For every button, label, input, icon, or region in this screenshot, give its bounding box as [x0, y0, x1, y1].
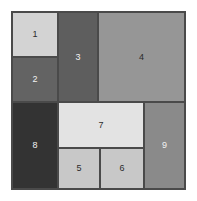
- treemap-tile-1[interactable]: 1: [12, 12, 58, 57]
- treemap-tile-6[interactable]: 6: [100, 148, 144, 189]
- treemap-tile-3[interactable]: 3: [58, 12, 98, 102]
- treemap-tile-7[interactable]: 7: [58, 102, 144, 148]
- treemap-tile-label: 4: [139, 53, 144, 62]
- treemap-tile-4[interactable]: 4: [98, 12, 185, 102]
- treemap-tile-label: 6: [119, 164, 124, 173]
- treemap-tile-2[interactable]: 2: [12, 57, 58, 102]
- treemap-tile-label: 8: [32, 141, 37, 150]
- treemap-tile-label: 5: [76, 164, 81, 173]
- treemap-figure: 123487569: [0, 0, 197, 201]
- treemap-tile-label: 1: [32, 30, 37, 39]
- treemap-tile-9[interactable]: 9: [144, 102, 185, 189]
- treemap-tile-label: 9: [162, 141, 167, 150]
- treemap-tile-label: 3: [75, 53, 80, 62]
- treemap-tile-5[interactable]: 5: [58, 148, 100, 189]
- treemap-tile-label: 2: [32, 75, 37, 84]
- treemap-tile-8[interactable]: 8: [12, 102, 58, 189]
- treemap-plot-area: 123487569: [11, 11, 186, 190]
- treemap-tile-label: 7: [98, 121, 103, 130]
